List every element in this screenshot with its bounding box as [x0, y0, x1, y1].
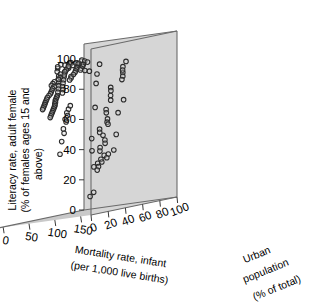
y-axis-title: Literacy rate, adult female (% of female…: [6, 87, 44, 212]
y-axis-title-line1: Literacy rate, adult female: [6, 89, 18, 210]
z-axis-title: Urban population (% of total): [241, 243, 303, 302]
figure-root: 020406080100050100150100806040200 Litera…: [0, 0, 335, 304]
x-axis-title: Mortality rate, infant (per 1,000 live b…: [70, 243, 169, 286]
y-axis-title-line2: (% of females ages 15 and: [19, 87, 31, 212]
axis-titles-layer: Literacy rate, adult female (% of female…: [0, 0, 335, 304]
y-axis-title-line3: above): [32, 148, 44, 180]
z-axis-title-line1: Urban: [241, 243, 272, 265]
